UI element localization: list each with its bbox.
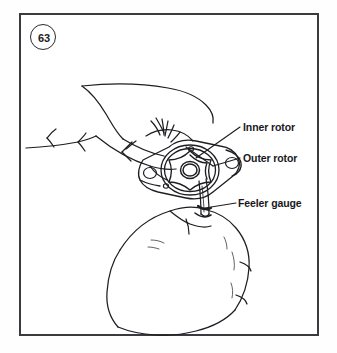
label-inner-rotor: Inner rotor [243,121,295,133]
figure-border-frame [19,13,319,336]
figure-number-label: 63 [31,25,57,51]
label-feeler-gauge: Feeler gauge [238,197,302,209]
figure-number-badge: 63 [30,24,56,50]
figure-illustration-root: 63 Inner rotor Outer rotor Feeler gauge [0,0,337,353]
label-outer-rotor: Outer rotor [243,152,297,164]
